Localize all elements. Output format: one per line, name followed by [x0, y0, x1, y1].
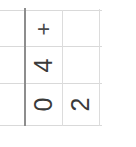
table-cell-r1c2: +	[26, 11, 62, 46]
table-cell-r3c2: 0	[26, 84, 62, 125]
cell-text-r3c3: 2	[69, 98, 94, 112]
table-cell-r1c3	[63, 11, 99, 46]
table-rule-vertical-2	[99, 9, 100, 126]
table-cell-r2c2: 4	[26, 47, 62, 83]
table-cell-r2c1	[0, 47, 24, 83]
table-rule-horizontal-bottom	[0, 125, 102, 126]
table-cell-r3c3: 2	[63, 84, 99, 125]
cell-text-r3c2: 0	[32, 98, 57, 112]
cell-text-r2c2: 4	[32, 58, 57, 72]
table-cell-r1c1	[0, 11, 24, 46]
table-cell-r3c1	[0, 84, 24, 125]
scanned-table-fragment: + 4 0 2	[0, 0, 136, 147]
cell-text-r1c2: +	[33, 22, 55, 35]
table-cell-r2c3	[63, 47, 99, 83]
